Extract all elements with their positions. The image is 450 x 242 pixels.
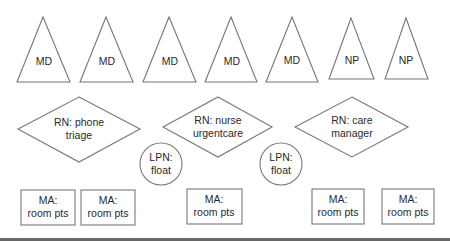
rn-label-line1: RN: nurse (194, 114, 241, 126)
provider-md-2: MD (80, 17, 133, 82)
lpn-label-line2: float (271, 164, 291, 176)
ma-label-line2: room pts (388, 206, 429, 218)
ma-label-line1: MA: (39, 194, 58, 206)
bottom-divider (0, 238, 450, 241)
care-team-diagram: MD MD MD MD MD NP NP RN: phone triage RN… (0, 0, 450, 242)
lpn-float-1: LPN: float (140, 143, 182, 185)
rn-nurse-urgentcare: RN: nurse urgentcare (163, 97, 272, 157)
rn-label-line1: RN: care (331, 114, 373, 126)
ma-label-line2: room pts (28, 207, 69, 219)
ma-label-line1: MA: (399, 193, 418, 205)
ma-label-line2: room pts (318, 206, 359, 218)
rn-label-line2: triage (66, 129, 92, 141)
ma-room-pts-4: MA: room pts (312, 189, 364, 224)
provider-md-3: MD (143, 17, 196, 82)
provider-label: MD (284, 54, 301, 66)
provider-label: NP (345, 54, 360, 66)
provider-label: MD (162, 55, 179, 67)
ma-label-line1: MA: (99, 194, 118, 206)
provider-label: MD (224, 55, 241, 67)
ma-label-line1: MA: (205, 193, 224, 205)
provider-md-4: MD (205, 17, 257, 82)
rn-care-manager: RN: care manager (295, 97, 408, 157)
provider-label: MD (36, 55, 53, 67)
provider-label: MD (99, 55, 116, 67)
ma-label-line2: room pts (88, 207, 129, 219)
lpn-label-line1: LPN: (149, 151, 172, 163)
rn-label-line2: urgentcare (193, 127, 243, 139)
rn-phone-triage: RN: phone triage (18, 97, 140, 162)
ma-room-pts-3: MA: room pts (187, 189, 242, 224)
ma-label-line1: MA: (329, 193, 348, 205)
ma-room-pts-2: MA: room pts (81, 190, 135, 225)
provider-md-1: MD (17, 17, 70, 82)
provider-np-1: NP (329, 18, 374, 79)
ma-room-pts-5: MA: room pts (382, 189, 434, 224)
rn-label-line1: RN: phone (54, 116, 104, 128)
ma-label-line2: room pts (194, 206, 235, 218)
provider-label: NP (399, 54, 414, 66)
provider-md-5: MD (266, 17, 318, 82)
lpn-label-line2: float (151, 164, 171, 176)
lpn-float-2: LPN: float (260, 143, 302, 185)
lpn-label-line1: LPN: (269, 151, 292, 163)
provider-np-2: NP (385, 18, 428, 79)
rn-label-line2: manager (331, 127, 373, 139)
ma-room-pts-1: MA: room pts (21, 190, 75, 225)
